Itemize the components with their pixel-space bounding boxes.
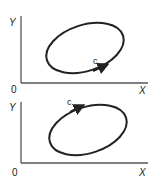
top-curve-label: c (93, 56, 98, 66)
top-closed-curve (40, 14, 130, 82)
diagram-canvas: Y 0 X c Y 0 X c (0, 0, 161, 185)
bottom-closed-curve (43, 96, 133, 164)
bottom-plot: Y 0 X c (9, 96, 148, 178)
top-y-label: Y (9, 17, 17, 28)
top-plot: Y 0 X c (9, 14, 148, 96)
bottom-x-label: X (138, 167, 146, 178)
bottom-y-label: Y (9, 102, 17, 113)
top-x-label: X (138, 85, 146, 96)
bottom-curve-label: c (67, 97, 72, 107)
top-origin-label: 0 (11, 84, 17, 95)
bottom-origin-label: 0 (12, 167, 18, 178)
